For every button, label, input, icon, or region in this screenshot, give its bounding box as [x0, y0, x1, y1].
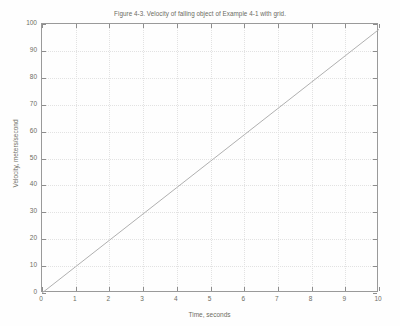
x-axis-tick-labels: 012345678910	[41, 295, 378, 307]
y-tick-label: 90	[30, 46, 37, 53]
data-series-layer	[42, 24, 379, 293]
y-tick-label: 0	[33, 288, 37, 295]
x-tick-label: 6	[241, 295, 245, 302]
x-tick-label: 8	[309, 295, 313, 302]
x-tick-label: 7	[275, 295, 279, 302]
x-axis-tick	[379, 287, 380, 291]
y-tick-label: 60	[30, 127, 37, 134]
x-axis-title: Time, seconds	[41, 311, 378, 318]
x-axis-tick-top	[379, 24, 380, 28]
x-tick-label: 3	[140, 295, 144, 302]
x-tick-label: 1	[73, 295, 77, 302]
chart-canvas: Figure 4-3. Velocity of falling object o…	[0, 0, 400, 326]
velocity-line	[42, 29, 379, 293]
y-tick-label: 50	[30, 154, 37, 161]
y-tick-label: 80	[30, 73, 37, 80]
chart-title: Figure 4-3. Velocity of falling object o…	[0, 10, 400, 17]
y-tick-label: 40	[30, 180, 37, 187]
x-tick-label: 4	[174, 295, 178, 302]
y-tick-label: 20	[30, 234, 37, 241]
y-axis-title: Velocity, meters/second	[12, 84, 19, 224]
y-axis-tick	[42, 293, 46, 294]
x-tick-label: 5	[208, 295, 212, 302]
y-tick-label: 30	[30, 207, 37, 214]
x-tick-label: 9	[342, 295, 346, 302]
y-axis-tick-right	[373, 293, 377, 294]
x-tick-label: 0	[39, 295, 43, 302]
y-tick-label: 70	[30, 100, 37, 107]
plot-area	[41, 23, 378, 292]
y-axis-tick-labels: 0102030405060708090100	[16, 23, 37, 292]
y-tick-label: 10	[30, 261, 37, 268]
x-tick-label: 10	[374, 295, 381, 302]
y-tick-label: 100	[26, 19, 37, 26]
x-tick-label: 2	[107, 295, 111, 302]
